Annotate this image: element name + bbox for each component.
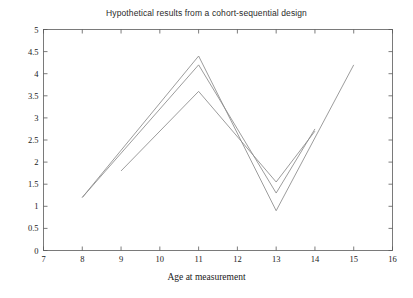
x-tick-label: 14 (311, 254, 320, 264)
series-line-cohort-3 (121, 91, 315, 182)
y-tick-label: 5 (34, 25, 38, 35)
y-tick-label: 2.5 (28, 135, 39, 145)
x-tick-label: 11 (195, 254, 203, 264)
x-tick-label: 15 (349, 254, 358, 264)
y-tick-label: 0 (34, 246, 38, 256)
y-tick-label: 3.5 (28, 91, 39, 101)
y-tick-label: 4 (34, 69, 39, 79)
y-tick-label: 3 (34, 113, 38, 123)
x-tick-label: 13 (272, 254, 281, 264)
x-tick-label: 8 (80, 254, 84, 264)
x-tick-label: 16 (388, 254, 397, 264)
axes-group (44, 30, 393, 251)
tick-labels-group: 7891011121314151600.511.522.533.544.55 (28, 25, 397, 264)
y-tick-label: 2 (34, 157, 38, 167)
y-tick-label: 0.5 (28, 223, 39, 233)
x-tick-label: 10 (156, 254, 165, 264)
x-tick-label: 9 (119, 254, 123, 264)
y-tick-label: 4.5 (28, 47, 39, 57)
x-tick-label: 7 (41, 254, 45, 264)
x-tick-label: 12 (233, 254, 242, 264)
x-axis-label: Age at measurement (0, 272, 413, 282)
ticks-group (44, 30, 393, 251)
plot-area: 7891011121314151600.511.522.533.544.55 (0, 0, 413, 298)
data-series-group (82, 56, 353, 211)
figure-canvas: Hypothetical results from a cohort-seque… (0, 0, 413, 298)
plot-frame (44, 30, 393, 251)
y-tick-label: 1.5 (28, 179, 39, 189)
y-tick-label: 1 (34, 201, 38, 211)
